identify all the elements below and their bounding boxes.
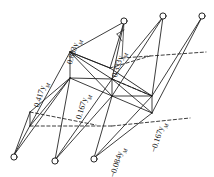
node-lower-left-1	[11, 154, 17, 160]
node-upper-right-3	[199, 13, 205, 19]
label-neg0167yM-sub: M	[162, 123, 169, 129]
node-lower-left-2	[52, 158, 58, 164]
figure-canvas	[0, 0, 214, 177]
node-upper-right-2	[160, 13, 166, 19]
node-upper-right-1	[121, 18, 127, 24]
node-lower-left-3	[91, 156, 97, 162]
label-neg0084yM-sub: M	[121, 148, 128, 154]
lattice-frame-figure	[0, 0, 214, 177]
